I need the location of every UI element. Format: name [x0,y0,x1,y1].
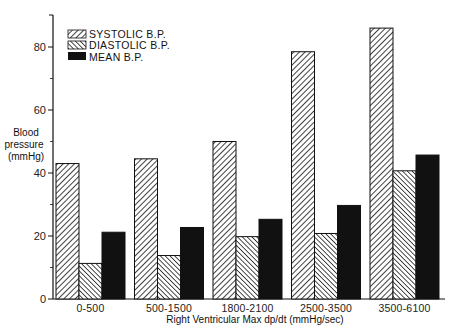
legend-item-diastolic: DIASTOLIC B.P. [68,39,170,51]
legend-label-diastolic: DIASTOLIC B.P. [89,39,170,51]
y-axis-title-line-1: Blood [13,127,39,138]
bar-diastolic [158,256,181,299]
bar-diastolic [315,233,338,299]
y-tick-label: 0 [40,293,46,305]
y-axis-title-line-3: (mmHg) [8,151,44,162]
bar-mean [416,155,439,299]
bar-systolic [292,52,315,299]
x-tick-label: 1800-2100 [221,302,273,314]
y-tick-label: 80 [34,41,46,53]
bar-systolic [56,164,79,299]
y-tick-label: 20 [34,230,46,242]
bar-mean [338,205,361,299]
bar-mean [102,232,125,299]
x-tick-label: 2500-3500 [300,302,352,314]
bar-mean [259,219,282,299]
bar-systolic [213,142,236,300]
y-axis-title: Blood pressure (mmHg) [5,127,45,162]
legend-item-mean: MEAN B.P. [68,51,143,63]
x-tick-label: 0-500 [77,302,105,314]
y-tick-label: 60 [34,104,46,116]
bar-diastolic [236,237,259,299]
legend: SYSTOLIC B.P. DIASTOLIC B.P. MEAN B.P. [68,28,170,63]
bar-diastolic [393,171,416,299]
bar-diastolic [79,263,102,299]
bar-systolic [370,28,393,299]
bar-group-500-1500 [135,159,204,299]
legend-label-mean: MEAN B.P. [89,51,143,63]
bar-group-1800-2100 [213,142,282,300]
y-tick-label: 40 [34,167,46,179]
x-tick-labels: 0-500500-15001800-21002500-35003500-6100 [77,302,431,314]
x-tick-label: 3500-6100 [378,302,430,314]
y-axis-title-line-2: pressure [5,139,44,150]
bar-group-3500-6100 [370,28,439,299]
bar-systolic [135,159,158,299]
x-tick-label: 500-1500 [146,302,192,314]
legend-swatch-mean [68,52,86,60]
legend-swatch-diastolic [68,41,86,49]
bar-chart: 020406080 0-500500-15001800-21002500-350… [0,0,459,336]
bar-group-0-500 [56,164,125,299]
y-ticks: 020406080 [34,41,53,305]
bars [56,28,439,299]
bar-mean [181,227,204,299]
bar-group-2500-3500 [292,52,361,299]
legend-swatch-systolic [68,30,86,38]
x-axis-title: Right Ventricular Max dp/dt (mmHg/sec) [166,314,343,325]
